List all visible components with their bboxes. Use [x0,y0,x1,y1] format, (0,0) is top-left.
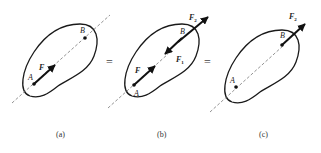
panel-a: A B F (a) [12,15,110,139]
point-b [83,36,87,40]
panel-b: A B F F1 F2 (b) [108,13,208,139]
label-a: A [229,76,235,85]
caption-a: (a) [56,130,65,139]
label-b: B [180,27,185,36]
point-a [234,85,238,89]
label-force-f: F [38,63,45,72]
label-a: A [27,73,33,82]
line-of-action [210,45,284,112]
label-b: B [280,31,285,40]
force-f2-arrow [282,24,305,45]
panel-c: A B F2 (c) [210,12,305,139]
rigid-body-outline [23,24,97,97]
equals-sign-2: = [204,55,211,69]
label-force-f2: F2 [288,12,297,22]
label-force-f: F [134,66,141,75]
force-f1-arrow [165,38,182,54]
force-f-arrow [34,65,55,84]
label-force-f1: F1 [175,55,184,65]
label-force-f2: F2 [188,13,197,23]
equals-sign-1: = [106,55,113,69]
caption-b: (b) [157,130,167,139]
label-b: B [80,26,85,35]
label-a: A [133,89,139,98]
force-transmissibility-diagram: A B F (a) = A B F F1 F2 (b) = A B F2 (c) [0,0,321,153]
caption-c: (c) [259,130,268,139]
